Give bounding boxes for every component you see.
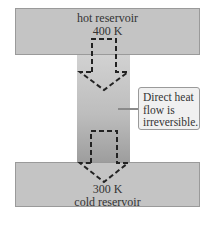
heat-flow-arrow-top-icon bbox=[80, 39, 128, 90]
irreversibility-callout: Direct heat flow is irreversible. bbox=[138, 87, 200, 130]
heat-flow-arrow-bottom-icon bbox=[80, 131, 128, 182]
callout-leader-line bbox=[118, 108, 138, 110]
